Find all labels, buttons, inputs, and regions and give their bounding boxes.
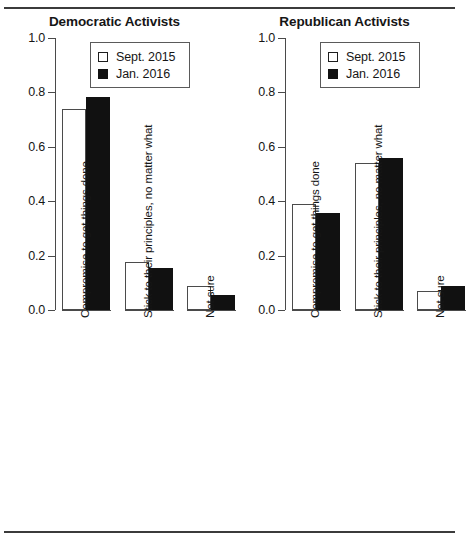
legend-row-jan2016-republican: Jan. 2016 xyxy=(328,65,411,82)
y-tick-0.6-republican xyxy=(278,147,285,148)
legend-swatch-sept2015-icon xyxy=(98,52,108,62)
legend-republican: Sept. 2015 Jan. 2016 xyxy=(320,42,420,88)
legend-swatch-jan2016-icon xyxy=(98,69,108,79)
y-tick-0.2-democratic xyxy=(48,256,55,257)
y-tick-label-0.0-democratic: 0.0 xyxy=(12,303,45,317)
y-tick-label-0.6-democratic: 0.6 xyxy=(12,140,45,154)
y-tick-1.0-democratic xyxy=(48,38,55,39)
legend-label-jan2016: Jan. 2016 xyxy=(346,67,400,81)
plot-area-democratic: 1.0 0.8 0.6 0.4 0.2 0.0 Sept. xyxy=(0,0,229,340)
x-category-label-principles-republican: Stick to their principles, no matter wha… xyxy=(372,125,384,318)
y-tick-label-1.0-democratic: 1.0 xyxy=(12,31,45,45)
x-category-label-compromise-democratic: Compromise to get things done xyxy=(79,161,91,318)
y-tick-0.2-republican xyxy=(278,256,285,257)
y-tick-label-0.4-democratic: 0.4 xyxy=(12,194,45,208)
y-tick-label-0.0-republican: 0.0 xyxy=(242,303,275,317)
y-tick-label-0.8-republican: 0.8 xyxy=(242,85,275,99)
y-tick-0.0-democratic xyxy=(48,310,55,311)
y-tick-0.4-republican xyxy=(278,201,285,202)
plot-area-republican: 1.0 0.8 0.6 0.4 0.2 0.0 Sept. 2015 xyxy=(230,0,459,340)
y-tick-0.4-democratic xyxy=(48,201,55,202)
y-tick-label-0.2-democratic: 0.2 xyxy=(12,249,45,263)
legend-label-sept2015: Sept. 2015 xyxy=(346,50,405,64)
y-axis-line-democratic xyxy=(55,38,56,310)
legend-swatch-sept2015-icon xyxy=(328,52,338,62)
y-tick-0.6-democratic xyxy=(48,147,55,148)
legend-swatch-jan2016-icon xyxy=(328,69,338,79)
y-tick-label-0.4-republican: 0.4 xyxy=(242,194,275,208)
panel-republican-activists: Republican Activists 1.0 0.8 0.6 0.4 0.2… xyxy=(230,0,459,544)
x-category-label-principles-democratic: Stick to their principles, no matter wha… xyxy=(142,125,154,318)
legend-row-jan2016-democratic: Jan. 2016 xyxy=(98,65,181,82)
x-category-label-notsure-republican: Not sure xyxy=(434,275,446,318)
y-tick-label-1.0-republican: 1.0 xyxy=(242,31,275,45)
y-tick-1.0-republican xyxy=(278,38,285,39)
y-tick-0.8-democratic xyxy=(48,92,55,93)
y-tick-label-0.6-republican: 0.6 xyxy=(242,140,275,154)
y-axis-line-republican xyxy=(285,38,286,310)
y-tick-0.0-republican xyxy=(278,310,285,311)
y-tick-label-0.8-democratic: 0.8 xyxy=(12,85,45,99)
legend-democratic: Sept. 2015 Jan. 2016 xyxy=(90,42,190,88)
legend-label-jan2016: Jan. 2016 xyxy=(116,67,170,81)
legend-row-sept2015-republican: Sept. 2015 xyxy=(328,48,411,65)
y-tick-label-0.2-republican: 0.2 xyxy=(242,249,275,263)
x-category-label-compromise-republican: Compromise to get things done xyxy=(309,161,321,318)
legend-label-sept2015: Sept. 2015 xyxy=(116,50,175,64)
x-category-label-notsure-democratic: Not sure xyxy=(204,275,216,318)
legend-row-sept2015-democratic: Sept. 2015 xyxy=(98,48,181,65)
panel-democratic-activists: Democratic Activists 1.0 0.8 0.6 0.4 0.2… xyxy=(0,0,229,544)
y-tick-0.8-republican xyxy=(278,92,285,93)
